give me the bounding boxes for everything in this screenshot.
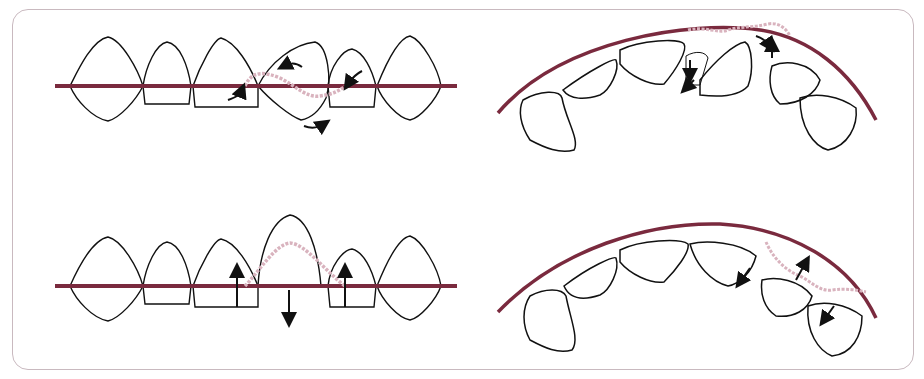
tooth [377, 36, 441, 120]
dental-diagram [0, 0, 924, 379]
tooth [762, 279, 812, 317]
tooth [520, 92, 575, 151]
panel-top-right [498, 24, 876, 152]
archwire [498, 28, 876, 120]
arrow [824, 306, 834, 320]
panel-bottom-right [498, 224, 876, 356]
arrow [284, 64, 302, 68]
panel-bottom-left [55, 215, 457, 321]
panel-top-left [55, 36, 457, 128]
tooth [193, 38, 258, 107]
arrow [756, 36, 770, 46]
tooth [143, 42, 191, 104]
tooth [620, 241, 688, 283]
tooth [620, 41, 685, 85]
tooth [70, 37, 143, 121]
tooth [193, 239, 258, 307]
tooth [377, 236, 441, 320]
tooth-rotated [258, 42, 329, 120]
tooth [690, 242, 756, 286]
arrow [348, 71, 362, 84]
tooth-extruded [258, 215, 321, 286]
tooth [524, 290, 575, 351]
arrow [228, 90, 242, 100]
tooth [143, 242, 191, 304]
arrow [686, 80, 694, 88]
arrow [304, 124, 324, 128]
tooth [328, 249, 376, 307]
tooth [808, 303, 862, 356]
tooth [563, 60, 617, 99]
tooth-rotated [700, 42, 752, 96]
tooth [70, 237, 143, 321]
arrow [740, 268, 750, 282]
tooth [770, 63, 820, 104]
tooth [800, 95, 856, 150]
archwire-engaged [766, 242, 866, 292]
tooth [564, 258, 617, 298]
